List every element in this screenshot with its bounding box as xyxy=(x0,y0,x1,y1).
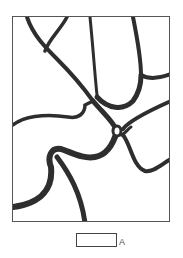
network-drawing xyxy=(13,17,170,222)
panel-label: A xyxy=(119,237,125,247)
figure-panel xyxy=(12,16,170,222)
scale-bar-box xyxy=(76,233,117,247)
